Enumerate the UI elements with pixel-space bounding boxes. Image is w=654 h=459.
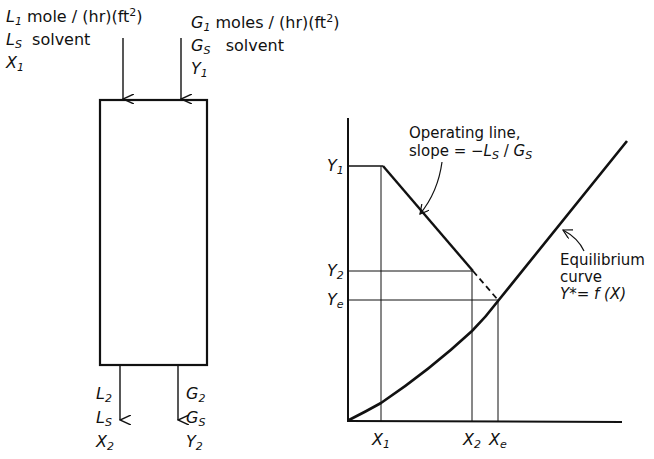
slope-prefix: slope = − bbox=[409, 142, 484, 160]
subscript: S bbox=[15, 38, 22, 51]
symbol-X2: X bbox=[96, 432, 107, 451]
equilibrium-equation: Y*= f (X) bbox=[560, 286, 645, 303]
tick-symbol: X bbox=[372, 430, 383, 449]
subscript: S bbox=[203, 44, 210, 57]
operating-line-extension bbox=[473, 271, 498, 300]
operating-line-label: Operating line, slope = −LS / GS bbox=[409, 124, 532, 165]
paren-close: ) bbox=[136, 7, 142, 26]
symbol-Gs: G bbox=[191, 36, 203, 55]
symbol-L1: L bbox=[6, 7, 15, 26]
x-tick-X2: X2 bbox=[463, 430, 481, 451]
subscript: 1 bbox=[383, 438, 390, 451]
paren-close: ) bbox=[333, 13, 339, 32]
subscript: 1 bbox=[203, 21, 210, 34]
subscript: 2 bbox=[474, 438, 481, 451]
subscript: S bbox=[492, 149, 499, 162]
solvent-text: solvent bbox=[226, 36, 284, 55]
symbol-Y2: Y bbox=[186, 432, 196, 451]
liquid-inlet-label: L1 mole / (hr)(ft2) LS solvent X1 bbox=[6, 4, 143, 77]
tick-symbol: Y bbox=[327, 261, 337, 280]
x-axis bbox=[347, 421, 622, 422]
symbol-X1: X bbox=[6, 53, 17, 72]
tick-symbol: X bbox=[463, 430, 474, 449]
equilibrium-callout-arrow bbox=[563, 230, 584, 251]
subscript: S bbox=[198, 416, 205, 429]
liquid-outlet-label: L2 LS X2 bbox=[96, 384, 114, 456]
curve-word: curve bbox=[560, 269, 645, 286]
symbol-G2: G bbox=[186, 384, 198, 403]
symbol-L2: L bbox=[96, 384, 105, 403]
symbol-Gs: G bbox=[186, 408, 198, 427]
slope-G: G bbox=[514, 142, 526, 160]
subscript: 1 bbox=[17, 61, 24, 74]
tick-symbol: Y bbox=[327, 156, 337, 175]
equilibrium-curve-label: Equilibrium curve Y*= f (X) bbox=[560, 252, 645, 303]
subscript: S bbox=[525, 149, 532, 162]
absorption-column bbox=[100, 100, 207, 365]
subscript: e bbox=[337, 298, 344, 311]
symbol-Ls: L bbox=[96, 408, 105, 427]
y-tick-Ye: Ye bbox=[327, 290, 344, 311]
subscript: 2 bbox=[196, 440, 203, 453]
subscript: 2 bbox=[337, 269, 344, 282]
tick-symbol: Y bbox=[327, 290, 337, 309]
subscript: 1 bbox=[337, 164, 344, 177]
flow-units: moles / (hr)(ft bbox=[216, 13, 327, 32]
x-tick-Xe: Xe bbox=[489, 430, 507, 451]
symbol-G1: G bbox=[191, 13, 203, 32]
symbol-Ls: L bbox=[6, 30, 15, 49]
subscript: 1 bbox=[15, 15, 22, 28]
operating-line-title: Operating line, bbox=[409, 124, 532, 142]
subscript: 2 bbox=[198, 392, 205, 405]
x-tick-X1: X1 bbox=[372, 430, 390, 451]
operating-line bbox=[383, 166, 473, 271]
solvent-text: solvent bbox=[32, 30, 90, 49]
subscript: 2 bbox=[105, 392, 112, 405]
subscript: 2 bbox=[107, 440, 114, 453]
y-tick-Y1: Y1 bbox=[327, 156, 344, 177]
gas-inlet-label: G2 GS Y2 bbox=[186, 384, 205, 456]
slope-L: L bbox=[484, 142, 492, 160]
gas-outlet-label: G1 moles / (hr)(ft2) GS solvent Y1 bbox=[191, 10, 339, 83]
tick-symbol: X bbox=[489, 430, 500, 449]
symbol-Y1: Y bbox=[191, 59, 201, 78]
y-tick-Y2: Y2 bbox=[327, 261, 344, 282]
subscript: e bbox=[500, 438, 507, 451]
equilibrium-title: Equilibrium bbox=[560, 252, 645, 269]
operating-callout-arrow bbox=[420, 162, 442, 214]
subscript: 1 bbox=[201, 67, 208, 80]
subscript: S bbox=[105, 416, 112, 429]
flow-units: mole / (hr)(ft bbox=[27, 7, 129, 26]
